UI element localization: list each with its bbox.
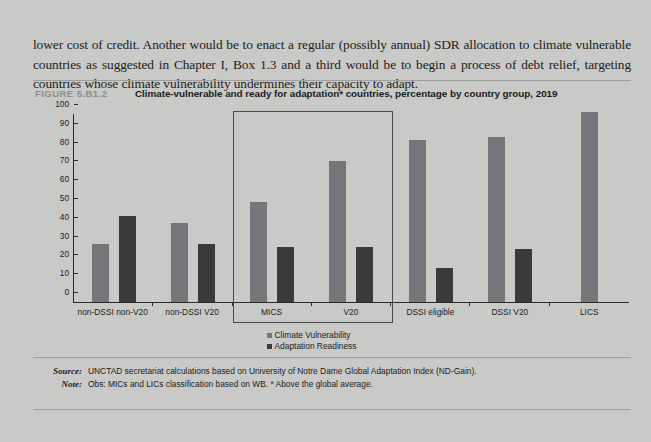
divider-above-footnotes xyxy=(33,357,631,358)
y-axis-tick: 90 xyxy=(37,118,74,128)
legend-swatch-adaptation-readiness xyxy=(267,344,272,349)
bar-group xyxy=(312,114,391,302)
x-axis-tick xyxy=(390,302,391,306)
legend-label-adaptation-readiness: Adaptation Readiness xyxy=(275,341,357,352)
bar-groups xyxy=(74,114,629,302)
bar-group xyxy=(153,114,232,302)
bar-adaptation-readiness xyxy=(515,249,532,302)
bar-group xyxy=(470,114,549,302)
legend-item-adaptation-readiness: Adaptation Readiness xyxy=(267,341,385,352)
divider-above-figure xyxy=(33,80,631,81)
note-text: Obs: MICs and LICs classification based … xyxy=(88,378,596,391)
y-axis-tick: 40 xyxy=(37,212,74,222)
y-axis-tick: 50 xyxy=(37,193,74,203)
bar-adaptation-readiness xyxy=(119,216,136,302)
bar-adaptation-readiness xyxy=(198,244,215,302)
legend-swatch-climate-vulnerability xyxy=(267,333,272,338)
document-page: lower cost of credit. Another would be t… xyxy=(0,0,651,442)
bar-climate-vulnerability xyxy=(171,223,188,302)
x-axis-tick xyxy=(549,302,550,306)
x-axis-tick xyxy=(152,302,153,306)
x-axis-label: non-DSSI non-V20 xyxy=(73,307,152,323)
bar-group xyxy=(74,114,153,302)
bar-group xyxy=(391,114,470,302)
y-axis-tick: 20 xyxy=(37,249,74,259)
bar-climate-vulnerability xyxy=(581,112,598,302)
source-row: Source: UNCTAD secretariat calculations … xyxy=(36,365,596,378)
x-axis-labels: non-DSSI non-V20non-DSSI V20MICSV20DSSI … xyxy=(73,307,629,323)
x-axis-tick xyxy=(311,302,312,306)
x-axis-tick xyxy=(469,302,470,306)
x-axis-label: V20 xyxy=(311,307,390,323)
divider-page-bottom xyxy=(33,409,631,410)
figure-footnotes: Source: UNCTAD secretariat calculations … xyxy=(36,365,596,390)
note-label: Note: xyxy=(36,378,88,391)
chart-legend: Climate Vulnerability Adaptation Readine… xyxy=(0,330,651,352)
bar-climate-vulnerability xyxy=(92,244,109,302)
y-axis-tick: 0 xyxy=(37,287,74,297)
bar-adaptation-readiness xyxy=(277,247,294,302)
figure-title: Climate-vulnerable and ready for adaptat… xyxy=(135,88,557,99)
bar-adaptation-readiness xyxy=(356,247,373,302)
bar-climate-vulnerability xyxy=(250,202,267,302)
bar-group xyxy=(550,114,629,302)
source-text: UNCTAD secretariat calculations based on… xyxy=(88,365,596,378)
y-axis-tick: 10 xyxy=(37,268,74,278)
y-axis-tick: 70 xyxy=(37,155,74,165)
note-row: Note: Obs: MICs and LICs classification … xyxy=(36,378,596,391)
bar-climate-vulnerability xyxy=(409,140,426,302)
x-axis-label: DSSI eligible xyxy=(391,307,470,323)
x-axis-label: LICS xyxy=(550,307,629,323)
bar-chart: 0102030405060708090100 non-DSSI non-V20n… xyxy=(35,110,635,325)
bar-group xyxy=(233,114,312,302)
x-axis-tick xyxy=(232,302,233,306)
y-axis-tick: 80 xyxy=(37,137,74,147)
body-paragraph: lower cost of credit. Another would be t… xyxy=(33,35,631,94)
figure-number: FIGURE 5.B1.2 xyxy=(35,88,135,99)
legend-item-climate-vulnerability: Climate Vulnerability xyxy=(267,330,385,341)
legend-label-climate-vulnerability: Climate Vulnerability xyxy=(275,330,351,341)
bar-adaptation-readiness xyxy=(436,268,453,302)
x-axis-label: DSSI V20 xyxy=(470,307,549,323)
bar-climate-vulnerability xyxy=(488,137,505,302)
y-axis-tick: 100 xyxy=(37,99,74,109)
x-axis-label: MICS xyxy=(232,307,311,323)
x-axis-label: non-DSSI V20 xyxy=(152,307,231,323)
figure-header: FIGURE 5.B1.2 Climate-vulnerable and rea… xyxy=(35,88,635,104)
y-axis-tick: 60 xyxy=(37,174,74,184)
bar-climate-vulnerability xyxy=(329,161,346,302)
source-label: Source: xyxy=(36,365,88,378)
plot-area: 0102030405060708090100 xyxy=(73,114,629,303)
y-axis-tick: 30 xyxy=(37,231,74,241)
